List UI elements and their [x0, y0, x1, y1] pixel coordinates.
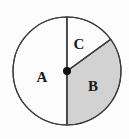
pie-slice-a-label: A: [37, 69, 48, 85]
pie-diagram: A B C: [0, 0, 129, 139]
pie-slice-c-label: C: [74, 36, 85, 52]
pie-slice-b-label: B: [88, 78, 98, 94]
figure-container: A B C: [0, 0, 129, 139]
center-point-dot: [63, 67, 71, 75]
